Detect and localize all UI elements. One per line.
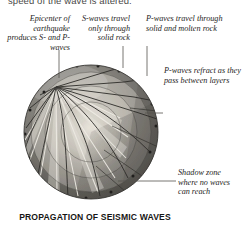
label-epicenter: Epicenter of earthquake produces S- and …	[2, 14, 70, 52]
label-shadow-zone: Shadow zone where no waves can reach	[178, 168, 242, 197]
figure-illustration: speed of the wave is altered.	[0, 0, 243, 232]
label-s-waves: S-waves travel only through solid rock	[72, 14, 130, 43]
label-p-waves: P-waves travel through solid and molten …	[146, 14, 238, 33]
label-refraction: P-waves refract as they pass between lay…	[164, 66, 242, 85]
figure-caption: PROPAGATION OF SEISMIC WAVES	[0, 212, 190, 222]
